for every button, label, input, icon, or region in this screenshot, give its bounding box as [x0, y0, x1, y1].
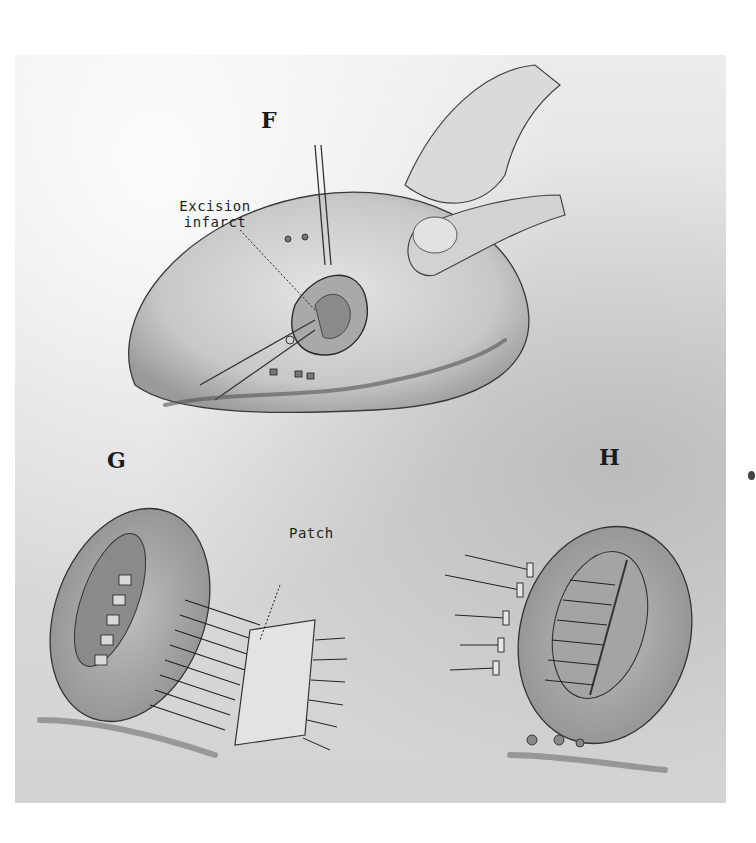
panel-label-g: G: [107, 447, 126, 473]
callout-line-2: infarct: [165, 214, 265, 230]
panel-f-drawing: [129, 65, 565, 412]
callout-excision-infarct: Excision infarct: [165, 198, 265, 230]
panel-label-f: F: [261, 107, 277, 133]
callout-line-1: Excision: [165, 198, 265, 214]
illustration-panel: F G H Excision infarct Patch: [15, 55, 726, 803]
surgical-illustration: [15, 55, 726, 803]
panel-h-drawing: [445, 507, 716, 770]
callout-patch: Patch: [289, 525, 334, 541]
panel-label-h: H: [599, 444, 620, 470]
margin-mark: [748, 471, 755, 480]
